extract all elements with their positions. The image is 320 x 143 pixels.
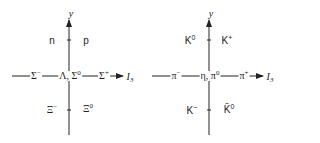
label-sigma-plus: Σ+ [98,71,110,81]
label-eta-pi0: η, π0 [200,71,221,81]
label-xi-zero: Ξ0 [82,104,94,114]
right-y-axis-label: y [209,9,213,19]
left-x-axis-label: I3 [127,72,134,82]
label-k-zero: K0 [184,36,197,46]
label-xi-minus: Ξ− [46,105,58,115]
label-sigma-minus: Σ− [30,71,42,81]
label-p: p [82,36,90,46]
label-pi-plus: π+ [238,71,249,81]
label-pi-minus: π− [170,71,181,81]
label-k-bar-zero: K̄0 [223,105,236,115]
label-lambda-sigma0: Λ, Σ0 [58,71,82,81]
label-k-plus: K+ [221,36,234,46]
label-k-minus: K− [186,106,199,116]
right-x-axis-label: I3 [267,72,274,82]
label-n: n [48,36,56,46]
left-y-axis-label: y [69,9,73,19]
